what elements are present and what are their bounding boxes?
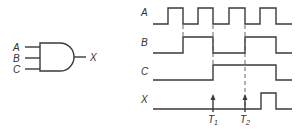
and-gate: A B C X (12, 42, 97, 75)
signal-label-b: B (141, 37, 148, 48)
waveform-b (153, 37, 292, 53)
diagram-canvas: A B C X A B C X T1 T2 (0, 0, 302, 129)
waveform-c (153, 65, 292, 80)
gate-input-label-b: B (13, 53, 20, 64)
gate-output-label-x: X (89, 52, 97, 63)
and-gate-body (40, 43, 74, 71)
gate-input-label-a: A (12, 42, 20, 53)
marker-label-t1: T1 (208, 114, 218, 126)
waveform-x (153, 93, 292, 109)
marker-t2: T2 (240, 94, 250, 126)
arrowhead-icon (211, 94, 216, 100)
waveform-a (153, 8, 292, 24)
gate-input-label-c: C (13, 64, 21, 75)
signal-label-a: A (140, 7, 148, 18)
signal-label-c: C (141, 66, 149, 77)
marker-label-t2: T2 (240, 114, 250, 126)
signal-label-x: X (140, 94, 148, 105)
arrowhead-icon (243, 94, 248, 100)
marker-t1: T1 (208, 94, 218, 126)
